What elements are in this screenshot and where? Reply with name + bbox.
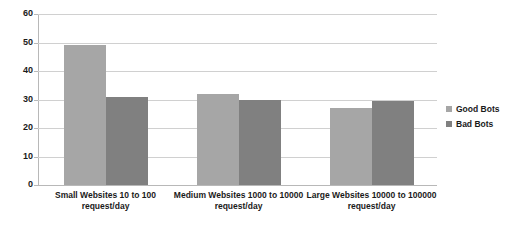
x-axis-category-label: Small Websites 10 to 100 request/day (39, 190, 172, 213)
x-axis-category-label: Large Websites 10000 to 100000 request/d… (305, 190, 438, 213)
gridline (38, 185, 437, 186)
y-axis-tick-mark (34, 100, 38, 101)
y-axis-tick-mark (34, 14, 38, 15)
legend-label: Bad Bots (456, 120, 493, 129)
legend-swatch-icon (446, 121, 452, 127)
legend-item-bad-bots[interactable]: Bad Bots (446, 120, 524, 129)
y-axis-tick-mark (34, 185, 38, 186)
bars-layer (39, 14, 437, 185)
y-axis-tick-mark (34, 128, 38, 129)
y-axis-tick-label: 60 (3, 9, 33, 18)
y-axis-tick-mark (34, 71, 38, 72)
bar-bad-bots[interactable] (106, 97, 148, 185)
y-axis-tick-mark (34, 157, 38, 158)
y-axis-tick-label: 40 (3, 66, 33, 75)
x-axis-category-labels: Small Websites 10 to 100 request/dayMedi… (39, 190, 437, 230)
y-axis-labels: 0102030405060 (0, 0, 33, 232)
bar-bad-bots[interactable] (372, 101, 414, 185)
bar-good-bots[interactable] (330, 108, 372, 185)
chart-legend: Good Bots Bad Bots (446, 105, 524, 134)
y-axis-tick-mark (34, 43, 38, 44)
bar-good-bots[interactable] (197, 94, 239, 185)
y-axis-tick-label: 20 (3, 123, 33, 132)
y-axis-tick-label: 30 (3, 95, 33, 104)
y-axis-tick-label: 0 (3, 180, 33, 189)
chart-title-cropped (0, 0, 526, 9)
x-axis-category-label: Medium Websites 1000 to 10000 request/da… (172, 190, 305, 213)
bar-bad-bots[interactable] (239, 100, 281, 186)
y-axis-tick-label: 10 (3, 152, 33, 161)
y-axis-tick-label: 50 (3, 38, 33, 47)
bar-good-bots[interactable] (64, 45, 106, 185)
legend-label: Good Bots (456, 105, 499, 114)
bar-chart: 0102030405060 Small Websites 10 to 100 r… (0, 0, 526, 232)
legend-item-good-bots[interactable]: Good Bots (446, 105, 524, 114)
legend-swatch-icon (446, 106, 452, 112)
